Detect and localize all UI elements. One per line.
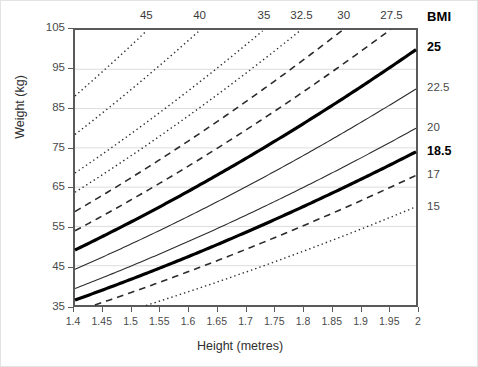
x-tick-mark [389,307,390,312]
x-tick-mark [361,307,362,312]
y-tick-label: 45 [25,261,65,272]
top-bmi-label-45: 45 [121,9,171,21]
bmi-curve-25 [75,50,416,250]
top-bmi-label-30: 30 [319,9,369,21]
x-tick-mark [102,307,103,312]
bmi-chart-figure: Weight (kg) 35455565758595105 45403532.5… [0,0,478,367]
bmi-curves [75,30,416,305]
x-tick-mark [332,307,333,312]
x-tick-mark [246,307,247,312]
right-bmi-label-25: 25 [427,41,441,53]
top-bmi-label-27-5: 27.5 [367,9,417,21]
right-bmi-label-20: 20 [427,121,440,133]
top-bmi-label-40: 40 [175,9,225,21]
bmi-curve-32-5 [75,31,299,192]
x-tick-label: 2 [398,316,438,327]
right-bmi-label-17: 17 [427,168,440,180]
x-tick-mark [274,307,275,312]
x-tick-mark [73,307,74,312]
y-tick-label: 85 [25,102,65,113]
right-bmi-label-18-5: 18.5 [427,145,451,157]
y-tick-label: 75 [25,142,65,153]
x-tick-mark [418,307,419,312]
x-tick-mark [217,307,218,312]
bmi-curve-35 [75,31,263,173]
right-bmi-label-15: 15 [427,200,440,212]
bmi-curve-45 [75,31,146,96]
x-tick-mark [303,307,304,312]
x-tick-mark [159,307,160,312]
y-tick-label: 35 [25,301,65,312]
bmi-curve-40 [75,30,200,134]
y-tick-label: 55 [25,221,65,232]
y-tick-label: 95 [25,62,65,73]
x-tick-mark [131,307,132,312]
bmi-curve-30 [75,30,342,211]
bmi-curve-20 [75,128,416,288]
right-bmi-label-22-5: 22.5 [427,81,449,93]
x-axis-title: Height (metres) [1,339,478,353]
bmi-curve-17 [95,175,416,305]
y-tick-label: 65 [25,181,65,192]
y-tick-label: 105 [25,22,65,33]
plot-area [73,28,418,307]
bmi-curve-27-5 [75,30,390,231]
bmi-header-label: BMI [427,9,451,24]
x-tick-mark [188,307,189,312]
